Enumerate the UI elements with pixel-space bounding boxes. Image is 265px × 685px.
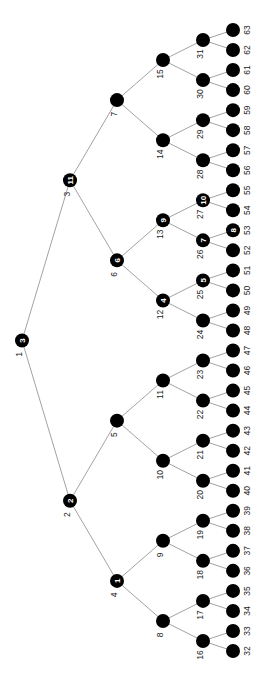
node-id-label: 2 — [62, 512, 72, 517]
tree-node-47: 47 — [226, 344, 252, 358]
node-circle — [156, 534, 170, 548]
node-badge: 5 — [199, 278, 208, 283]
tree-node-43: 43 — [226, 424, 252, 438]
tree-node-19: 19 — [195, 514, 210, 540]
node-id-label: 35 — [242, 586, 252, 596]
node-circle — [226, 584, 240, 598]
tree-node-27: 1027 — [195, 193, 210, 219]
tree-node-52: 52 — [226, 243, 252, 257]
tree-node-46: 46 — [226, 364, 252, 378]
tree-edge — [117, 381, 163, 421]
tree-node-36: 36 — [226, 564, 252, 578]
node-circle — [196, 554, 210, 568]
node-circle — [156, 374, 170, 388]
node-id-label: 24 — [195, 329, 205, 339]
node-circle — [226, 43, 240, 57]
tree-node-34: 34 — [226, 604, 252, 618]
node-id-label: 53 — [242, 225, 252, 235]
tree-node-51: 51 — [226, 263, 252, 277]
tree-node-17: 17 — [195, 594, 210, 620]
tree-node-31: 31 — [195, 33, 210, 59]
node-circle — [196, 153, 210, 167]
node-id-label: 12 — [155, 309, 165, 319]
node-id-label: 28 — [195, 169, 205, 179]
tree-node-61: 61 — [226, 63, 252, 77]
tree-edge — [117, 421, 163, 461]
node-id-label: 60 — [242, 85, 252, 95]
tree-node-59: 59 — [226, 103, 252, 117]
node-circle — [196, 113, 210, 127]
tree-node-48: 48 — [226, 323, 252, 337]
node-circle — [226, 183, 240, 197]
node-circle — [226, 504, 240, 518]
node-circle — [226, 123, 240, 137]
tree-node-24: 24 — [195, 313, 210, 339]
tree-edge — [117, 260, 163, 300]
node-badge: 4 — [159, 298, 168, 303]
node-id-label: 30 — [195, 89, 205, 99]
node-id-label: 22 — [195, 410, 205, 420]
node-id-label: 51 — [242, 265, 252, 275]
node-id-label: 26 — [195, 249, 205, 259]
node-id-label: 49 — [242, 305, 252, 315]
node-id-label: 36 — [242, 566, 252, 576]
tree-node-49: 49 — [226, 303, 252, 317]
tree-node-22: 22 — [195, 394, 210, 420]
node-circle — [226, 464, 240, 478]
node-circle — [226, 524, 240, 538]
node-id-label: 46 — [242, 366, 252, 376]
node-circle — [196, 634, 210, 648]
tree-node-20: 20 — [195, 474, 210, 500]
node-circle — [226, 424, 240, 438]
node-id-label: 48 — [242, 325, 252, 335]
tree-edge — [117, 581, 163, 621]
node-id-label: 6 — [109, 272, 119, 277]
node-badge: 1 — [113, 578, 122, 583]
tree-node-16: 16 — [195, 634, 210, 660]
node-id-label: 1 — [14, 352, 24, 357]
node-circle — [226, 644, 240, 658]
node-id-label: 38 — [242, 526, 252, 536]
tree-node-14: 14 — [155, 133, 170, 159]
node-id-label: 62 — [242, 45, 252, 55]
tree-edge — [117, 220, 163, 260]
node-circle — [196, 434, 210, 448]
node-circle — [226, 143, 240, 157]
node-id-label: 58 — [242, 125, 252, 135]
node-circle — [196, 73, 210, 87]
binary-tree-diagram: 3122113145667891011412913141516171819202… — [0, 0, 265, 685]
tree-node-63: 63 — [226, 23, 252, 37]
node-id-label: 27 — [195, 209, 205, 219]
tree-node-60: 60 — [226, 83, 252, 97]
node-id-label: 18 — [195, 570, 205, 580]
node-id-label: 61 — [242, 65, 252, 75]
node-circle — [226, 344, 240, 358]
node-id-label: 47 — [242, 346, 252, 356]
tree-node-15: 15 — [155, 53, 170, 79]
node-circle — [196, 354, 210, 368]
tree-node-53: 853 — [226, 223, 252, 237]
node-id-label: 44 — [242, 406, 252, 416]
node-circle — [156, 454, 170, 468]
tree-edge — [117, 60, 163, 100]
node-id-label: 17 — [195, 610, 205, 620]
tree-node-55: 55 — [226, 183, 252, 197]
node-circle — [226, 564, 240, 578]
tree-node-25: 525 — [195, 273, 210, 299]
node-badge: 8 — [229, 228, 238, 233]
node-circle — [226, 404, 240, 418]
node-badge: 2 — [66, 498, 75, 503]
node-circle — [226, 444, 240, 458]
node-circle — [226, 243, 240, 257]
tree-node-11: 11 — [155, 374, 170, 399]
node-circle — [226, 544, 240, 558]
node-id-label: 55 — [242, 185, 252, 195]
node-badge: 6 — [113, 258, 122, 263]
node-id-label: 14 — [155, 149, 165, 159]
node-circle — [226, 163, 240, 177]
node-id-label: 32 — [242, 646, 252, 656]
node-circle — [196, 313, 210, 327]
tree-node-28: 28 — [195, 153, 210, 179]
tree-node-39: 39 — [226, 504, 252, 518]
tree-node-7: 7 — [109, 93, 124, 116]
